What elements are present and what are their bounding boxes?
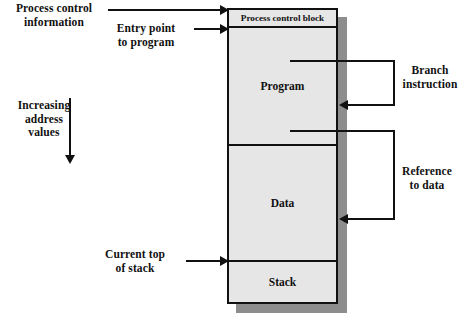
label-process-control-information: Process control information: [2, 2, 106, 29]
reference-loop-top-line: [290, 130, 395, 132]
segment-program: Program: [227, 26, 338, 146]
segment-stack: Stack: [227, 260, 338, 304]
arrow-line-entry-point: [194, 28, 222, 30]
diagram-canvas: Process control block Program Data Stack…: [0, 0, 461, 331]
segment-data: Data: [227, 144, 338, 262]
label-current-top-of-stack: Current top of stack: [86, 248, 184, 275]
figure-caption: [2, 323, 202, 331]
segment-process-control-block: Process control block: [227, 8, 338, 28]
reference-loop-bottom-line: [348, 218, 395, 220]
label-reference-to-data: Reference to data: [396, 165, 458, 192]
arrowhead-increasing-address-icon: [65, 155, 75, 164]
label-entry-point-to-program: Entry point to program: [100, 22, 192, 49]
arrowhead-process-control-information-icon: [220, 5, 229, 15]
arrowhead-branch-instruction-icon: [339, 100, 348, 110]
segment-label-program: Program: [261, 80, 305, 92]
reference-loop-right-line: [393, 130, 395, 220]
arrow-line-process-control-information: [108, 9, 222, 11]
arrowhead-current-top-of-stack-icon: [220, 256, 229, 266]
segment-label-stack: Stack: [269, 276, 296, 288]
memory-block: Process control block Program Data Stack: [227, 8, 338, 304]
segment-label-data: Data: [271, 197, 295, 209]
arrow-line-increasing-address: [69, 98, 71, 158]
branch-loop-top-line: [290, 60, 395, 62]
branch-loop-bottom-line: [348, 104, 395, 106]
branch-loop-right-line: [393, 60, 395, 106]
arrowhead-entry-point-icon: [220, 24, 229, 34]
arrowhead-reference-to-data-icon: [339, 214, 348, 224]
arrow-line-current-top-of-stack: [186, 260, 222, 262]
segment-label-process-control-block: Process control block: [241, 13, 324, 23]
label-branch-instruction: Branch instruction: [400, 64, 460, 91]
